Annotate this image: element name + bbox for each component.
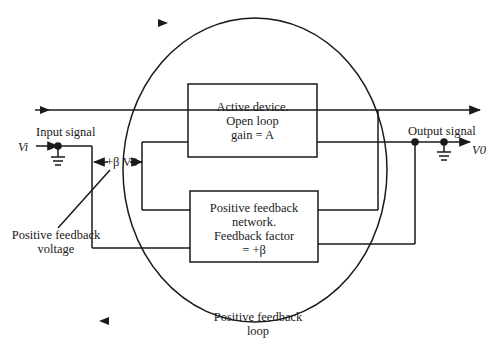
loop-label-line2: loop <box>210 324 306 338</box>
input-signal-label: Input signal <box>36 125 95 139</box>
output-symbol: V0 <box>472 143 486 157</box>
feedback-network-line3: Feedback factor <box>190 229 318 243</box>
feedback-voltage-pointer <box>58 170 110 228</box>
feedback-voltage-label: Positive feedback voltage <box>8 228 104 256</box>
diagram-canvas <box>0 0 491 348</box>
feedback-network-label: Positive feedback network. Feedback fact… <box>190 201 318 257</box>
feedback-voltage-line1: Positive feedback <box>8 228 104 242</box>
active-device-label: Active device. Open loop gain = A <box>188 100 317 142</box>
loop-label-line1: Positive feedback <box>210 310 306 324</box>
loop-bottom-arrow-icon <box>99 317 109 325</box>
input-symbol: Vi <box>18 140 28 154</box>
feedback-network-line2: network. <box>190 215 318 229</box>
feedback-network-line4: = +β <box>190 243 318 257</box>
active-device-line3: gain = A <box>188 128 317 142</box>
active-device-line2: Open loop <box>188 114 317 128</box>
feedback-loop-circle <box>123 18 387 322</box>
output-signal-label: Output signal <box>408 124 476 138</box>
loop-label: Positive feedback loop <box>210 310 306 338</box>
feedback-term-label: +β V0 <box>106 155 138 169</box>
feedback-network-line1: Positive feedback <box>190 201 318 215</box>
active-device-line1: Active device. <box>188 100 317 114</box>
feedback-voltage-line2: voltage <box>8 242 104 256</box>
loop-top-arrow-icon <box>158 19 168 27</box>
